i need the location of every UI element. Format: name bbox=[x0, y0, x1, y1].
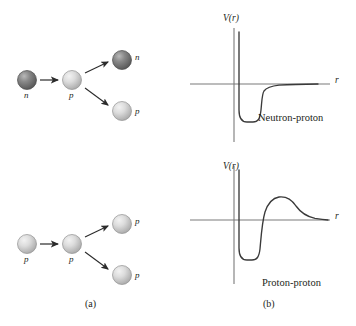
chart-neutron-proton-potential: V(r) r Neutron-proton bbox=[178, 2, 356, 152]
label-outgoing-upper-particle: p bbox=[135, 217, 140, 226]
arrow-scatter-upper bbox=[85, 226, 108, 237]
arrow-scatter-upper bbox=[85, 62, 108, 73]
particle-proton-outgoing-upper bbox=[113, 215, 132, 234]
label-incoming-particle: n bbox=[24, 91, 29, 100]
label-outgoing-upper-particle: n bbox=[135, 53, 140, 62]
label-outgoing-lower-particle: p bbox=[135, 271, 140, 280]
particle-proton-target bbox=[63, 235, 82, 254]
label-target-particle: p bbox=[69, 91, 74, 100]
x-axis-label: r bbox=[335, 212, 339, 222]
chart-proton-proton-potential: V(r) r Proton-proton bbox=[178, 164, 356, 314]
chart-title-proton-proton: Proton-proton bbox=[262, 278, 321, 289]
label-target-particle: p bbox=[69, 255, 74, 264]
arrow-scatter-lower bbox=[85, 252, 108, 269]
potential-curve bbox=[239, 32, 318, 122]
panel-b-caption: (b) bbox=[263, 299, 275, 309]
panel-a-scattering: n p n p p p bbox=[0, 0, 178, 326]
chart-title-neutron-proton: Neutron-proton bbox=[258, 113, 323, 124]
panel-b-potentials: V(r) r Neutron-proton V(r) r Proton-prot… bbox=[178, 0, 356, 326]
particle-proton-target bbox=[63, 71, 82, 90]
diagram-neutron-proton-scattering: n p n p bbox=[0, 8, 178, 158]
y-axis-label: V(r) bbox=[223, 14, 239, 24]
particle-neutron-incoming bbox=[18, 71, 37, 90]
arrow-scatter-lower bbox=[85, 88, 108, 105]
particle-proton-outgoing-lower bbox=[113, 266, 132, 285]
x-axis-label: r bbox=[335, 76, 339, 86]
figure-nuclear-potentials: n p n p p p bbox=[0, 0, 356, 326]
panel-a-caption: (a) bbox=[85, 299, 96, 309]
particle-proton-outgoing bbox=[113, 102, 132, 121]
particle-proton-incoming bbox=[18, 235, 37, 254]
particle-neutron-outgoing bbox=[113, 51, 132, 70]
label-outgoing-lower-particle: p bbox=[135, 107, 140, 116]
y-axis-label: V(r) bbox=[223, 162, 239, 172]
label-incoming-particle: p bbox=[24, 255, 29, 264]
potential-curve bbox=[239, 170, 328, 260]
